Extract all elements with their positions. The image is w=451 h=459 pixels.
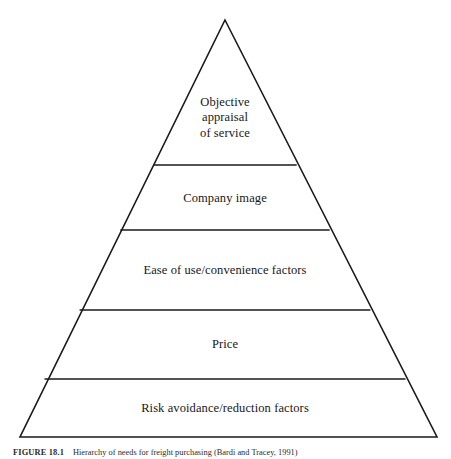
pyramid-diagram [0,0,451,459]
figure-caption-text: Hierarchy of needs for freight purchasin… [73,448,298,457]
pyramid-tier-label-risk-avoidance: Risk avoidance/reduction factors [75,401,375,416]
pyramid-outline [20,20,437,437]
pyramid-tier-label-price: Price [155,337,295,352]
figure-caption: FIGURE 18.1Hierarchy of needs for freigh… [13,448,443,459]
pyramid-tier-label-ease-of-use: Ease of use/convenience factors [85,263,365,278]
pyramid-tier-label-objective-appraisal: Objective appraisal of service [145,95,305,141]
figure-container: Objective appraisal of service Company i… [0,0,451,459]
figure-caption-label: FIGURE 18.1 [13,448,64,457]
pyramid-tier-label-company-image: Company image [125,191,325,206]
